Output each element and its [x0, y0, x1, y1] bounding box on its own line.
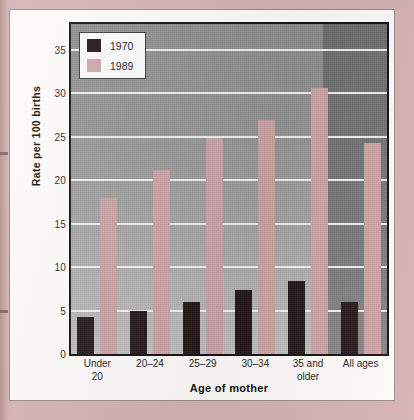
y-tick-label-0: 0 — [32, 349, 66, 360]
bar-1970-all-ages — [341, 302, 358, 354]
x-tick-label-2: 25–29 — [173, 358, 233, 371]
page-edge-strip — [0, 0, 9, 420]
x-tick-label-4: 35 andolder — [278, 358, 338, 383]
legend-item-1970: 1970 — [87, 39, 133, 52]
gridline-25 — [71, 136, 387, 138]
bar-1970-under-20 — [77, 317, 94, 354]
y-tick-label-15: 15 — [32, 218, 66, 229]
page-edge-tick — [0, 152, 8, 155]
legend-label-1970: 1970 — [110, 40, 133, 52]
bar-1989-30-34 — [258, 120, 275, 354]
page-edge-tick — [0, 310, 8, 313]
bar-1989-under-20 — [100, 198, 117, 354]
legend-item-1989: 1989 — [87, 59, 133, 72]
x-tick-line: 25–29 — [173, 358, 233, 371]
legend-swatch-1989 — [87, 59, 101, 72]
x-axis-title: Age of mother — [69, 382, 389, 394]
x-tick-label-3: 30–34 — [225, 358, 285, 371]
legend-swatch-1970 — [87, 39, 101, 52]
bar-1970-20-24 — [130, 311, 147, 354]
bar-1989-20-24 — [153, 170, 170, 354]
y-tick-label-10: 10 — [32, 262, 66, 273]
gridline-30 — [71, 92, 387, 94]
gridline-15 — [71, 223, 387, 225]
y-tick-label-35: 35 — [32, 45, 66, 56]
bar-1970-25-29 — [183, 302, 200, 354]
bar-1989-35-and-older — [311, 88, 328, 354]
x-tick-line: All ages — [331, 358, 391, 371]
x-tick-line: 20–24 — [120, 358, 180, 371]
x-tick-line: 30–34 — [225, 358, 285, 371]
bar-1970-35-and-older — [288, 281, 305, 354]
bar-1970-30-34 — [235, 290, 252, 354]
x-tick-label-1: 20–24 — [120, 358, 180, 371]
gridline-10 — [71, 266, 387, 268]
legend-label-1989: 1989 — [110, 60, 133, 72]
figure-card: 05101520253035 Rate per 100 births 1970 … — [9, 9, 395, 401]
y-tick-label-5: 5 — [32, 305, 66, 316]
scanned-page: 05101520253035 Rate per 100 births 1970 … — [0, 0, 414, 420]
x-tick-label-5: All ages — [331, 358, 391, 371]
legend: 1970 1989 — [79, 32, 146, 79]
x-tick-line: 35 and — [278, 358, 338, 371]
gridline-20 — [71, 179, 387, 181]
x-tick-label-0: Under20 — [67, 358, 127, 383]
bar-1989-all-ages — [364, 143, 381, 354]
bar-1989-25-29 — [206, 138, 223, 354]
x-tick-line: Under — [67, 358, 127, 371]
gridline-5 — [71, 310, 387, 312]
y-axis-title: Rate per 100 births — [30, 66, 42, 206]
plot-area: 1970 1989 — [69, 22, 389, 356]
